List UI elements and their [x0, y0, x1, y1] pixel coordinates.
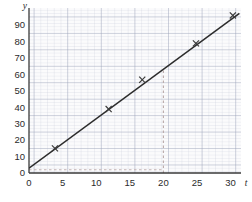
y-tick-label: 80 [14, 36, 25, 47]
x-tick-label: 0 [26, 177, 31, 188]
y-axis-label: y [22, 1, 28, 11]
y-axis-tick-labels: 0 10 20 30 40 50 60 70 80 90 [14, 19, 25, 178]
y-tick-label: 30 [14, 118, 25, 129]
y-tick-label: 40 [14, 102, 25, 113]
y-tick-label: 10 [14, 151, 25, 162]
x-axis-label: t [245, 178, 248, 188]
y-tick-label: 50 [14, 85, 25, 96]
x-axis-tick-labels: 0 5 10 15 20 25 30 [26, 177, 236, 188]
y-tick-label: 90 [14, 19, 25, 30]
x-tick-label: 15 [125, 177, 136, 188]
x-tick-label: 25 [192, 177, 203, 188]
y-tick-label: 0 [20, 167, 25, 178]
chart-figure: 0 10 20 30 40 50 60 70 80 90 0 5 10 15 2… [0, 0, 252, 202]
y-tick-label: 60 [14, 69, 25, 80]
y-tick-label: 20 [14, 134, 25, 145]
scatter-plot-with-line-of-best-fit: 0 10 20 30 40 50 60 70 80 90 0 5 10 15 2… [0, 0, 252, 202]
x-tick-label: 30 [225, 177, 236, 188]
x-tick-label: 5 [60, 177, 65, 188]
y-tick-label: 70 [14, 52, 25, 63]
x-tick-label: 20 [158, 177, 169, 188]
x-tick-label: 10 [91, 177, 102, 188]
